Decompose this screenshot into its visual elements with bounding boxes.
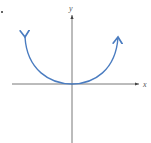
y-axis-label: y [68,4,73,13]
bullet-dot [1,11,3,13]
graph-figure: x y [0,0,151,143]
curve-line [25,37,118,84]
x-axis-label: x [142,80,147,89]
graph-svg: x y [0,0,151,143]
